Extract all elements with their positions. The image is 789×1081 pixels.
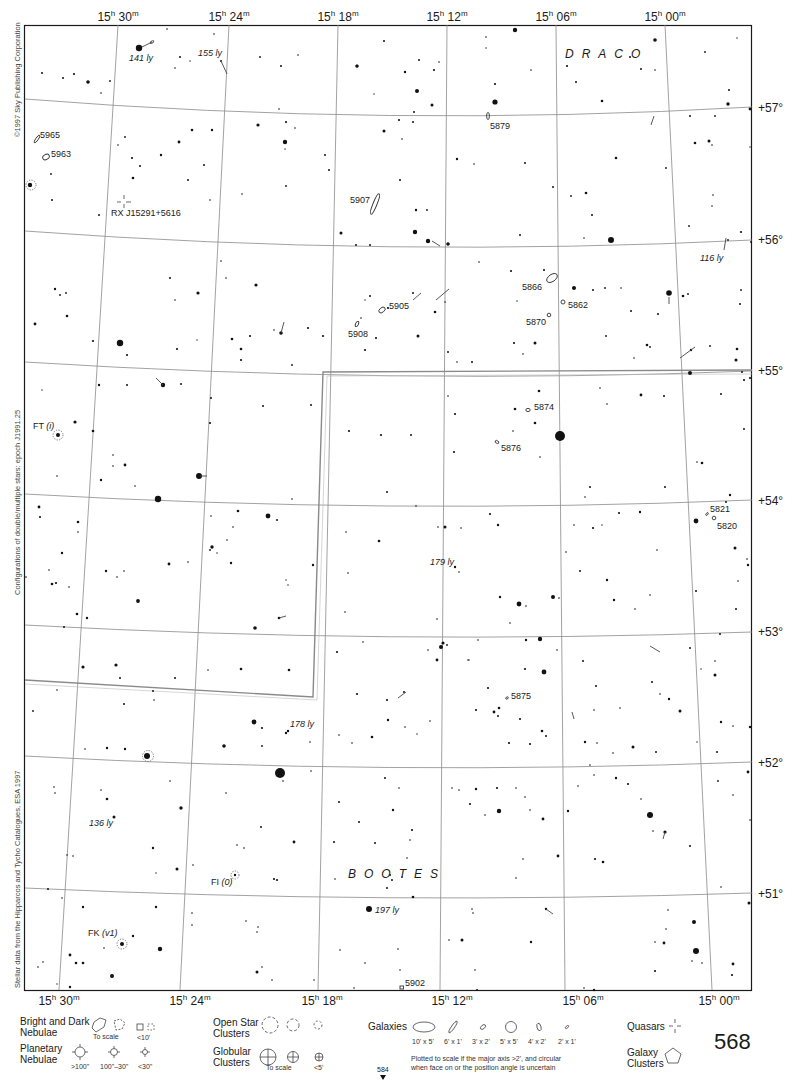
- legend-galaxy-size-3: 3' x 2': [472, 1038, 490, 1045]
- legend-globular-scale: To scale: [266, 1064, 292, 1071]
- variable-star-fk-label[interactable]: FK (v1): [88, 928, 118, 938]
- ra-label-top-1524: 15h 24m: [208, 9, 249, 24]
- distance-136ly: 136 ly: [89, 818, 113, 828]
- legend-galaxy-size-6: 2' x 1': [558, 1038, 576, 1045]
- variable-star-ft-label[interactable]: FT (i): [33, 421, 54, 431]
- dec-label-54: +54°: [758, 494, 783, 508]
- legend-galaxies-title: Galaxies: [368, 1021, 407, 1032]
- ngc-5965-label[interactable]: 5965: [40, 130, 60, 140]
- ra-label-bottom-1506: 15h 06m: [562, 993, 603, 1008]
- constellation-bootes: BOOTES: [348, 867, 446, 881]
- legend-quasars-title: Quasars: [627, 1021, 665, 1032]
- legend-planetary-medium: 100"–30": [100, 1063, 128, 1070]
- ra-label-top-1506: 15h 06m: [535, 9, 576, 24]
- epoch-note: Configurations of double/multiple stars:…: [13, 410, 22, 595]
- dec-gridlines: [25, 99, 752, 898]
- distance-179ly: 179 ly: [430, 557, 454, 567]
- constellation-boundary: [25, 370, 752, 697]
- ngc-5866-label[interactable]: 5866: [522, 282, 542, 292]
- ngc-5879-label[interactable]: 5879: [490, 121, 510, 131]
- legend-galaxy-clusters-title: Galaxy Clusters: [627, 1047, 664, 1069]
- variable-star-rings: [26, 180, 239, 949]
- legend-nebulae-small: <10': [137, 1034, 150, 1041]
- ngc-5875-label[interactable]: 5875: [511, 691, 531, 701]
- star-tick-marks: [142, 40, 726, 914]
- ngc-5902-label[interactable]: 5902: [405, 978, 425, 988]
- legend-nebulae-title: Bright and Dark Nebulae: [20, 1016, 89, 1038]
- distance-155ly: 155 ly: [198, 48, 222, 58]
- legend-planetary-large: >100": [71, 1063, 89, 1070]
- ra-label-bottom-1530: 15h 30m: [38, 993, 79, 1008]
- constellation-draco: DRACO: [565, 47, 648, 61]
- distance-141ly: 141 ly: [129, 53, 153, 63]
- ra-label-top-1500: 15h 00m: [644, 9, 685, 24]
- ngc-5874-label[interactable]: 5874: [534, 402, 554, 412]
- legend-galaxy-size-1: 10' x 5': [412, 1038, 434, 1045]
- legend-galaxy-size-2: 6' x 1': [444, 1038, 462, 1045]
- ra-gridlines: [59, 25, 712, 990]
- galaxies: [33, 113, 715, 990]
- dec-label-57: +57°: [758, 101, 783, 115]
- ngc-5876-label[interactable]: 5876: [501, 443, 521, 453]
- ngc-5821-label[interactable]: 5821: [710, 504, 730, 514]
- ra-label-bottom-1524: 15h 24m: [169, 993, 210, 1008]
- ngc-5907-label[interactable]: 5907: [350, 195, 370, 205]
- legend-planetary-title: Planetary Nebulae: [20, 1043, 62, 1065]
- page-number: 568: [714, 1029, 751, 1055]
- quasar-marker: [117, 195, 131, 208]
- ra-label-top-1530: 15h 30m: [97, 9, 138, 24]
- ngc-5908-label[interactable]: 5908: [348, 329, 368, 339]
- star-chart: [0, 0, 789, 1081]
- nav-arrow-south[interactable]: [380, 1075, 386, 1080]
- distance-197ly: 197 ly: [375, 905, 399, 915]
- copyright-text: ©1997 Sky Publishing Corporation: [13, 22, 22, 137]
- ra-label-bottom-1518: 15h 18m: [301, 993, 342, 1008]
- data-source-note: Stellar data from the Hipparcos and Tych…: [13, 771, 22, 989]
- ngc-5905-label[interactable]: 5905: [389, 301, 409, 311]
- legend-galaxy-size-5: 4' x 2': [528, 1038, 546, 1045]
- ngc-5963-label[interactable]: 5963: [51, 149, 71, 159]
- ra-label-top-1518: 15h 18m: [317, 9, 358, 24]
- dec-label-55: +55°: [758, 364, 783, 378]
- stars: [25, 28, 752, 991]
- distance-116ly: 116 ly: [700, 253, 723, 263]
- legend-galaxy-note: Plotted to scale if the major axis >2', …: [411, 1054, 561, 1072]
- ra-label-bottom-1512: 15h 12m: [431, 993, 472, 1008]
- legend-open-clusters-title: Open Star Clusters: [213, 1017, 259, 1039]
- ra-label-bottom-1500: 15h 00m: [698, 993, 739, 1008]
- quasar-rx-label[interactable]: RX J15291+5616: [111, 208, 181, 218]
- ra-label-top-1512: 15h 12m: [426, 9, 467, 24]
- legend-nebulae-scale: To scale: [93, 1033, 119, 1040]
- distance-178ly: 178 ly: [290, 719, 314, 729]
- dec-label-51: +51°: [758, 887, 783, 901]
- ngc-5870-label[interactable]: 5870: [526, 317, 546, 327]
- adjacent-chart-south[interactable]: 584: [377, 1066, 389, 1073]
- dec-label-53: +53°: [758, 625, 783, 639]
- dec-label-52: +52°: [758, 756, 783, 770]
- legend-galaxy-size-4: 5' x 5': [500, 1038, 518, 1045]
- legend-globular-title: Globular Clusters: [213, 1046, 251, 1068]
- dec-label-56: +56°: [758, 233, 783, 247]
- chart-frame: [25, 26, 752, 991]
- legend-planetary-small: <30": [138, 1063, 152, 1070]
- variable-star-fi-label[interactable]: FI (0): [211, 877, 233, 887]
- ngc-5862-label[interactable]: 5862: [568, 300, 588, 310]
- legend-globular-small: <5': [314, 1064, 323, 1071]
- ngc-5820-label[interactable]: 5820: [717, 521, 737, 531]
